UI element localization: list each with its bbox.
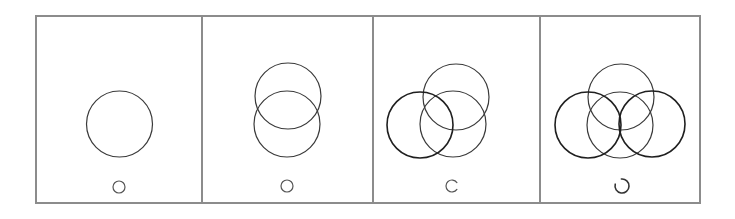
panel-dividers — [202, 16, 540, 203]
circle-2 — [254, 91, 320, 157]
circle-1 — [255, 63, 321, 129]
panel-2 — [254, 63, 321, 192]
panel-3 — [387, 64, 489, 192]
diagram-canvas — [0, 0, 735, 219]
marker-circle-icon — [113, 181, 125, 193]
panel-1 — [87, 91, 153, 193]
circle-2 — [587, 92, 653, 158]
outer-frame — [36, 16, 700, 203]
panel-4 — [555, 64, 685, 193]
circle-4 — [619, 91, 685, 157]
circle-1 — [87, 91, 153, 157]
circle-1 — [423, 64, 489, 130]
marker-circle-icon — [281, 180, 293, 192]
marker-open-arc-icon — [446, 180, 457, 192]
panels — [87, 63, 686, 193]
marker-open-arc-icon — [615, 179, 629, 193]
